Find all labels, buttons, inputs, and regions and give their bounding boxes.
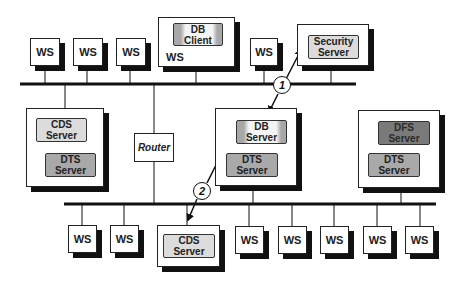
- db-client-service: DB Client: [173, 23, 223, 46]
- dfs-dts-host[interactable]: DFS Server DTS Server: [358, 110, 440, 188]
- workstation-bottom-2[interactable]: WS: [110, 225, 139, 253]
- cds-dts-host[interactable]: CDS Server DTS Server: [26, 108, 104, 187]
- cds-server-host[interactable]: CDS Server: [157, 225, 220, 267]
- security-server-service: Security Server: [308, 35, 359, 59]
- workstation-bottom-7[interactable]: WS: [405, 226, 434, 254]
- step-2-badge: 2: [193, 182, 211, 200]
- ws-label: WS: [251, 46, 277, 58]
- ws-label: WS: [236, 234, 263, 246]
- workstation-bottom-6[interactable]: WS: [363, 226, 392, 254]
- security-server-host[interactable]: Security Server: [297, 24, 369, 66]
- workstation-bottom-5[interactable]: WS: [320, 226, 349, 254]
- dts-server-service: DTS Server: [368, 153, 420, 177]
- network-diagram: WS WS WS DB Client WS WS Security Server…: [0, 0, 462, 286]
- workstation-bottom-1[interactable]: WS: [68, 225, 97, 253]
- ws-label: WS: [321, 234, 348, 246]
- workstation-top-4[interactable]: WS: [250, 38, 278, 66]
- ws-label: WS: [74, 46, 102, 58]
- ws-label: WS: [364, 234, 391, 246]
- cds-server-service: CDS Server: [163, 234, 215, 258]
- db-dts-host[interactable]: DB Server DTS Server: [215, 108, 297, 186]
- cds-server-service: CDS Server: [36, 118, 87, 142]
- ws-label: WS: [69, 233, 96, 245]
- ws-label: WS: [111, 233, 138, 245]
- workstation-top-2[interactable]: WS: [73, 38, 103, 66]
- db-server-service: DB Server: [236, 120, 287, 144]
- step-1-badge: 1: [273, 76, 291, 94]
- host-label: WS: [166, 51, 184, 63]
- ws-label: WS: [279, 234, 306, 246]
- ws-label: WS: [31, 46, 59, 58]
- step-2-arrow-down: [188, 199, 197, 220]
- dts-server-service: DTS Server: [45, 153, 96, 177]
- router[interactable]: Router: [134, 133, 174, 162]
- workstation-top-1[interactable]: WS: [30, 38, 60, 66]
- dfs-server-service: DFS Server: [378, 121, 430, 145]
- ws-label: WS: [117, 46, 145, 58]
- workstation-bottom-4[interactable]: WS: [278, 226, 307, 254]
- db-client-workstation[interactable]: DB Client WS: [158, 17, 235, 67]
- workstation-bottom-3[interactable]: WS: [235, 226, 264, 254]
- ws-label: WS: [406, 234, 433, 246]
- workstation-top-3[interactable]: WS: [116, 38, 146, 66]
- dts-server-service: DTS Server: [226, 153, 278, 177]
